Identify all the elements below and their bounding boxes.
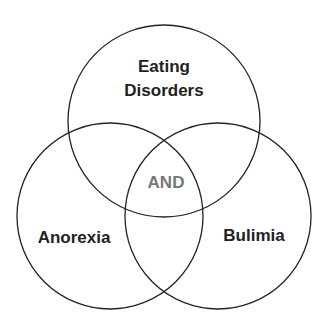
label-eating: Eating (138, 57, 190, 76)
venn-diagram: Eating Disorders AND Anorexia Bulimia (0, 0, 328, 322)
label-anorexia: Anorexia (38, 228, 111, 247)
label-bulimia: Bulimia (223, 226, 285, 245)
label-disorders: Disorders (124, 81, 203, 100)
label-and: AND (148, 173, 185, 192)
